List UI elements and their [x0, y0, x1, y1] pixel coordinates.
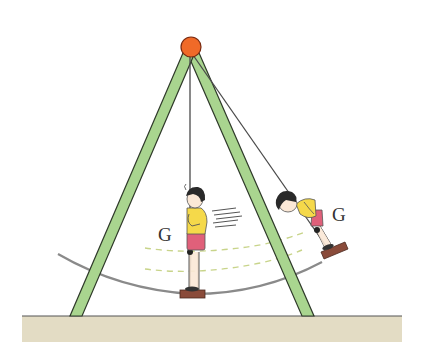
label-g-right: G — [332, 204, 346, 225]
swing-illustration: G G — [0, 0, 428, 356]
frame-right-leg — [186, 46, 314, 316]
ground — [22, 316, 402, 342]
child-leaning — [276, 191, 348, 259]
child-standing — [180, 184, 207, 298]
speed-lines-icon — [212, 208, 242, 227]
swing-diagram: G G — [0, 0, 428, 356]
pivot-ball — [181, 37, 201, 57]
label-g-left: G — [158, 224, 172, 245]
frame-left-leg — [70, 46, 196, 316]
